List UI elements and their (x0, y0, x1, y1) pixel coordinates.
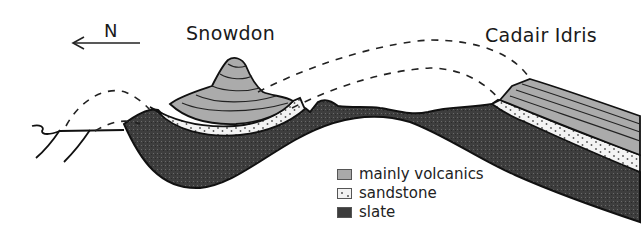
legend: mainly volcanics sandstone slate (337, 165, 484, 222)
legend-item-slate: slate (337, 203, 484, 221)
snowdon-label: Snowdon (186, 22, 275, 44)
legend-item-sandstone: sandstone (337, 184, 484, 202)
slate-swatch-icon (337, 207, 352, 218)
cadair-idris-label: Cadair Idris (485, 24, 597, 46)
sandstone-swatch-icon (337, 188, 352, 199)
left-strata-lines (32, 125, 124, 162)
north-label: N (104, 20, 118, 41)
legend-item-volcanics: mainly volcanics (337, 165, 484, 183)
volcanics-swatch-icon (337, 169, 352, 180)
legend-label: sandstone (359, 184, 437, 202)
cross-section-diagram: N Snowdon Cadair Idris mainly volcanics … (0, 0, 643, 241)
legend-label: slate (359, 203, 395, 221)
legend-label: mainly volcanics (359, 165, 484, 183)
